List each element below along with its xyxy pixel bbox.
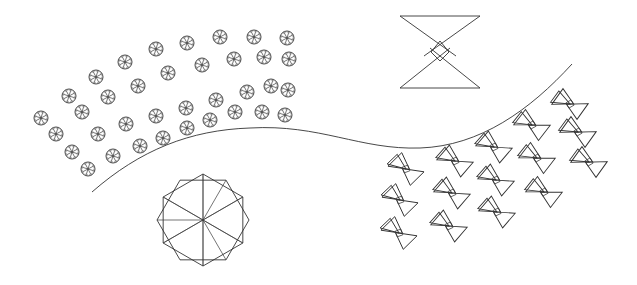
small-circle-symbol	[278, 108, 292, 122]
small-circle-symbol	[264, 79, 278, 93]
large-star-polygon	[157, 174, 249, 266]
small-circle-symbol	[209, 93, 223, 107]
small-circle-symbol	[65, 145, 79, 159]
small-bowtie-symbol	[427, 204, 470, 248]
small-bowtie-symbol	[510, 103, 554, 148]
small-circle-symbol	[133, 139, 147, 153]
small-circle-symbol	[62, 89, 76, 103]
diagram-canvas	[0, 0, 637, 285]
small-bowtie-symbol	[567, 139, 612, 184]
small-bowtie-symbol	[556, 109, 601, 154]
small-bowtie-symbol	[379, 179, 421, 222]
small-circle-symbol	[101, 90, 115, 104]
small-circle-symbol	[49, 127, 63, 141]
small-circle-symbol	[179, 101, 193, 115]
small-circle-symbol	[180, 36, 194, 50]
small-circle-symbol	[156, 131, 170, 145]
small-circle-symbol	[255, 105, 269, 119]
small-circle-symbol	[257, 50, 271, 64]
small-circle-symbol	[203, 113, 217, 127]
small-circle-symbol	[228, 105, 242, 119]
small-circle-symbol	[91, 127, 105, 141]
small-circle-symbol	[149, 42, 163, 56]
small-circle-symbol	[227, 52, 241, 66]
small-bowtie-symbol	[548, 81, 593, 126]
small-bowtie-symbol	[515, 136, 559, 181]
small-circle-symbol	[149, 109, 163, 123]
small-circle-symbol	[161, 66, 175, 80]
small-bowtie-symbol	[385, 148, 427, 191]
small-circle-grid	[34, 30, 296, 176]
small-circle-symbol	[280, 31, 294, 45]
small-circle-symbol	[118, 55, 132, 69]
small-circle-symbol	[89, 70, 103, 84]
large-bowtie-shape	[400, 16, 480, 88]
small-circle-symbol	[240, 85, 254, 99]
small-bowtie-symbol	[475, 190, 518, 234]
small-bowtie-grid	[378, 81, 611, 254]
small-circle-symbol	[119, 117, 133, 131]
small-bowtie-symbol	[474, 158, 517, 202]
small-circle-symbol	[281, 83, 295, 97]
small-circle-symbol	[34, 111, 48, 125]
small-circle-symbol	[247, 30, 261, 44]
small-circle-symbol	[81, 162, 95, 176]
line-drawing	[0, 0, 637, 285]
small-circle-symbol	[282, 52, 296, 66]
small-circle-symbol	[106, 149, 120, 163]
small-bowtie-symbol	[522, 170, 566, 215]
small-circle-symbol	[213, 30, 227, 44]
small-bowtie-symbol	[430, 171, 473, 215]
small-circle-symbol	[75, 105, 89, 119]
wavy-curve	[92, 64, 572, 192]
small-bowtie-symbol	[378, 212, 420, 255]
small-circle-symbol	[195, 58, 209, 72]
small-bowtie-symbol	[472, 125, 515, 169]
small-circle-symbol	[131, 79, 145, 93]
small-circle-symbol	[180, 121, 194, 135]
